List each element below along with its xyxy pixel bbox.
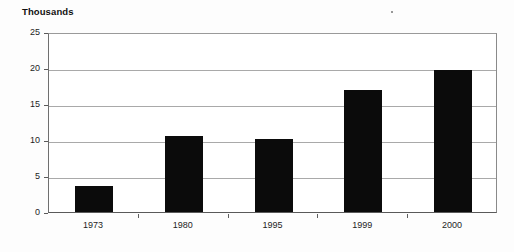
gridline [49, 106, 496, 107]
x-axis-category-label: 1980 [138, 220, 228, 230]
y-axis-tick [44, 69, 48, 70]
y-axis-tick-label: 20 [12, 63, 40, 73]
x-axis-tick [138, 214, 139, 218]
x-axis-tick [407, 214, 408, 218]
y-axis-tick [44, 105, 48, 106]
x-axis-category-label: 2000 [407, 220, 497, 230]
y-axis-tick [44, 177, 48, 178]
gridline [49, 70, 496, 71]
bar [165, 136, 203, 212]
y-axis-unit-label: Thousands [22, 6, 74, 17]
bar-chart: Thousands 051015202519731980199519992000 [0, 0, 514, 252]
x-axis-category-label: 1973 [48, 220, 138, 230]
y-axis-tick-label: 15 [12, 99, 40, 109]
x-axis-tick [317, 214, 318, 218]
x-axis-category-label: 1995 [228, 220, 318, 230]
bar [344, 90, 382, 212]
scan-artifact-speck [391, 11, 393, 13]
bar [434, 70, 472, 212]
x-axis-category-label: 1999 [317, 220, 407, 230]
y-axis-tick-label: 0 [12, 207, 40, 217]
bar [75, 186, 113, 212]
y-axis-tick-label: 25 [12, 27, 40, 37]
y-axis-tick-label: 5 [12, 171, 40, 181]
y-axis-tick-label: 10 [12, 135, 40, 145]
y-axis-tick [44, 33, 48, 34]
x-axis-tick [228, 214, 229, 218]
y-axis-tick [44, 141, 48, 142]
bar [255, 139, 293, 212]
y-axis-tick [44, 213, 48, 214]
plot-area [48, 33, 497, 213]
